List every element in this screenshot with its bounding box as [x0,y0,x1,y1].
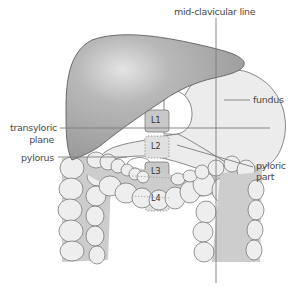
label-pyloric-part-2: part [256,171,274,182]
label-pylorus: pylorus [21,152,54,163]
label-transpyloric-plane-1: transyloric [10,122,57,133]
vertebra-label-l2: L2 [151,142,161,151]
vertebra-label-l1: L1 [151,116,161,125]
label-mid-clavicular-line: mid-clavicular line [174,6,255,17]
label-pyloric-part-1: pyloric [256,160,286,171]
label-transpyloric-plane-2: plane [29,134,54,145]
label-fundus: fundus [253,94,284,105]
vertebra-label-l3: L3 [151,167,161,176]
vertebra-label-l4: L4 [151,194,161,203]
